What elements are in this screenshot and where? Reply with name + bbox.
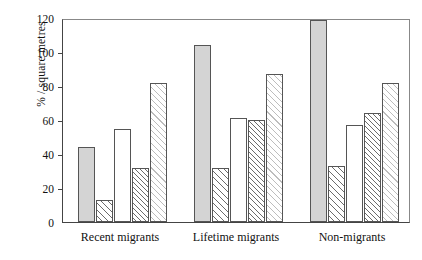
y-tick-label: 120	[14, 11, 54, 27]
x-axis-group-label: Lifetime migrants	[178, 230, 294, 245]
bar	[212, 168, 229, 222]
bar	[194, 45, 211, 222]
bar-chart: % / square metres 020406080100120 Recent…	[0, 0, 422, 260]
bar	[150, 83, 167, 222]
bar	[248, 120, 265, 222]
bar	[346, 125, 363, 222]
bar	[266, 74, 283, 222]
y-tick-label: 20	[14, 181, 54, 197]
y-tick-label: 60	[14, 113, 54, 129]
bar	[382, 83, 399, 222]
bar	[230, 118, 247, 222]
bar	[310, 20, 327, 222]
plot-area	[62, 19, 410, 223]
y-tick-label: 80	[14, 79, 54, 95]
x-axis-group-label: Recent migrants	[62, 230, 178, 245]
y-tick-label: 100	[14, 45, 54, 61]
y-tick-label: 0	[14, 215, 54, 231]
bar	[78, 147, 95, 222]
bar	[114, 129, 131, 223]
y-tick-label: 40	[14, 147, 54, 163]
bar	[132, 168, 149, 222]
x-axis-group-label: Non-migrants	[294, 230, 410, 245]
bar	[364, 113, 381, 222]
bar	[328, 166, 345, 222]
bar	[96, 200, 113, 222]
